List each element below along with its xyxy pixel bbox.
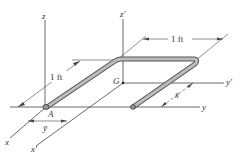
arrowhead [217,38,223,41]
y-prime-axis-label: y′ [225,77,233,87]
extension-line [117,36,146,60]
y-bar-label: ȳ [42,123,48,133]
x-axis-label: x [4,137,9,147]
arrowhead [161,102,167,107]
z-prime-axis-label: z′ [119,9,127,19]
x-prime-axis-label: x′ [30,144,38,152]
centroid-label: G [113,76,120,86]
rod-end-b [131,105,136,109]
x-bar-label: x̄ [174,90,180,100]
y-axis-label: y [201,102,206,112]
x-axis [10,107,46,138]
rod-diagram: 1 ft 1 ft x̄ ȳ z z′ y y′ x x′ A G [0,0,243,152]
origin-label: A [47,109,54,119]
arrowhead [187,83,193,88]
extension-line [196,34,228,60]
z-axis-label: z [41,11,46,21]
dimension-line-side [18,61,80,107]
dimension-label-top: 1 ft [171,34,184,44]
arrowhead [61,120,67,123]
dimension-label-side: 1 ft [50,72,63,82]
centroid-point [122,82,125,85]
